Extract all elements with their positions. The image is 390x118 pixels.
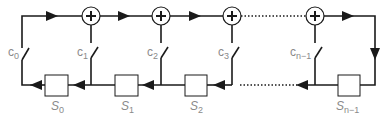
lfsr-diagram: c0 c1 c2 c3 cn−1 S0 S1 S2 Sn−1 xyxy=(0,0,390,118)
coef-label-2: c2 xyxy=(147,45,158,61)
arrow-right-icon xyxy=(46,11,58,21)
adder-2 xyxy=(152,7,170,25)
adder-n xyxy=(306,7,324,25)
register-sn-1 xyxy=(338,75,360,96)
register-labels: S0 S1 S2 Sn−1 xyxy=(51,99,359,115)
arrow-right-icon xyxy=(342,11,354,21)
coefficient-labels: c0 c1 c2 c3 cn−1 xyxy=(8,45,311,61)
reg-label-n-1: Sn−1 xyxy=(336,99,359,115)
arrow-right-icon xyxy=(118,11,130,21)
arrow-left-icon xyxy=(142,80,154,90)
reg-label-0: S0 xyxy=(51,99,64,115)
arrow-left-icon xyxy=(30,80,42,90)
register-s0 xyxy=(45,75,68,96)
register-s1 xyxy=(115,75,138,96)
arrow-left-icon xyxy=(73,80,85,90)
arrow-right-icon xyxy=(189,11,201,21)
arrow-left-icon xyxy=(296,80,308,90)
coef-label-n-1: cn−1 xyxy=(290,45,311,61)
coef-label-3: c3 xyxy=(218,45,229,61)
adder-3 xyxy=(223,7,241,25)
coef-label-0: c0 xyxy=(8,45,19,61)
coef-label-1: c1 xyxy=(77,45,88,61)
register-s2 xyxy=(185,75,207,96)
reg-label-1: S1 xyxy=(121,99,134,115)
reg-label-2: S2 xyxy=(190,99,203,115)
arrow-left-icon xyxy=(213,80,225,90)
adder-1 xyxy=(82,7,100,25)
arrow-down-icon xyxy=(370,48,380,60)
